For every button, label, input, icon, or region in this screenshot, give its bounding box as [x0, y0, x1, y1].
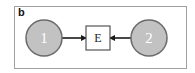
node-e: E — [86, 26, 110, 50]
node-2-label: 2 — [145, 30, 153, 46]
node-1-label: 1 — [40, 30, 48, 46]
node-e-label: E — [94, 31, 101, 45]
node-2: 2 — [131, 20, 167, 56]
diagram-canvas: 1 E 2 — [0, 0, 195, 73]
node-1: 1 — [26, 20, 62, 56]
